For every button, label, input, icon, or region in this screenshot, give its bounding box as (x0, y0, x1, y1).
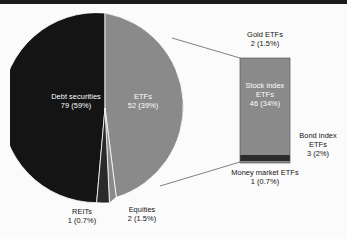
pie-label-equities: Equities 2 (1.5%) (112, 205, 172, 223)
bar-segment-gold-etfs[interactable] (240, 58, 290, 62)
bar-label-money-market-etfs: Money market ETFs 1 (0.7%) (203, 168, 327, 186)
bar-label-stock-index-etfs: Stock index ETFs 46 (34%) (240, 81, 290, 109)
bar-label-bond-index-etfs: Bond index ETFs 3 (2%) (292, 131, 344, 159)
bar-label-gold-etfs: Gold ETFs 2 (1.5%) (232, 30, 298, 48)
bar-outline (240, 58, 290, 163)
bar-segment-money-market-etfs[interactable] (240, 161, 290, 163)
bar-segment-bond-index-etfs[interactable] (240, 155, 290, 161)
pie-label-etfs: ETFs 52 (39%) (113, 92, 173, 110)
pie-label-debt-securities: Debt securities 79 (59%) (30, 92, 122, 110)
pie-label-reits: REITs 1 (0.7%) (54, 207, 110, 225)
pie-chart-figure: Debt securities 79 (59%) ETFs 52 (39%) R… (0, 0, 347, 239)
top-border-bar (0, 0, 347, 4)
